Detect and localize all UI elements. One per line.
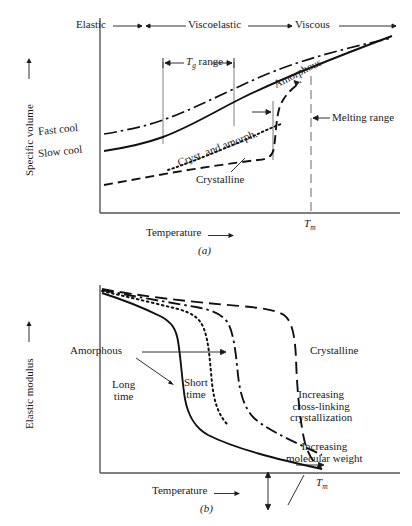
arrow-b-crosslinking-vertical bbox=[265, 472, 270, 510]
y-axis-label-a: Specific volume bbox=[24, 104, 36, 176]
annotation-tg-range: Tg range bbox=[186, 56, 223, 70]
label-b-increasing-molecular-weight: Increasing molecular weight bbox=[286, 441, 363, 464]
region-label-viscoelastic: Viscoelastic bbox=[188, 19, 241, 31]
xlink-line1: Increasing bbox=[298, 388, 344, 400]
label-b-long-time: Long time bbox=[112, 379, 135, 402]
long-time-line2: time bbox=[114, 390, 134, 402]
short-time-line1: Short bbox=[184, 376, 208, 388]
panel-caption-a: (a) bbox=[198, 245, 211, 257]
x-axis-arrow-b bbox=[214, 489, 242, 498]
mw-line2: molecular weight bbox=[286, 452, 363, 464]
x-tick-label-tm-b: Tm bbox=[316, 477, 328, 491]
region-label-viscous: Viscous bbox=[295, 19, 330, 31]
y-axis-arrow-b bbox=[24, 319, 34, 343]
label-b-crystalline: Crystalline bbox=[310, 345, 358, 357]
label-b-amorphous: Amorphous bbox=[70, 345, 122, 357]
figure-panel-a: Elastic Viscoelastic Viscous Tg range Fa… bbox=[0, 0, 412, 263]
curve-b-amorphous-dotted bbox=[102, 291, 228, 425]
tm-subscript-b: m bbox=[322, 482, 327, 491]
leader-crystalline bbox=[231, 158, 245, 172]
xlink-line3: crystallization bbox=[290, 411, 352, 423]
x-axis-text-b: Temperature bbox=[152, 484, 207, 496]
leader-amorphous bbox=[294, 81, 299, 86]
curve-b-short-time bbox=[102, 290, 322, 455]
chart-a-region-arrows bbox=[113, 24, 396, 28]
region-label-elastic: Elastic bbox=[76, 19, 106, 31]
panel-caption-b: (b) bbox=[200, 503, 213, 515]
y-axis-text-b: Elastic modulus bbox=[23, 358, 35, 429]
x-axis-arrow-a bbox=[208, 231, 236, 240]
x-axis-label-b: Temperature bbox=[152, 485, 207, 497]
y-axis-label-b: Elastic modulus bbox=[24, 358, 36, 429]
x-axis-label-a: Temperature bbox=[146, 227, 201, 239]
label-melting-range: Melting range bbox=[332, 112, 394, 124]
tg-range-word: range bbox=[199, 55, 223, 67]
y-axis-text-a: Specific volume bbox=[23, 104, 35, 176]
tg-subscript: g bbox=[192, 61, 196, 70]
label-crystalline: Crystalline bbox=[196, 174, 244, 186]
x-axis-text-a: Temperature bbox=[146, 226, 201, 238]
long-time-line1: Long bbox=[112, 378, 135, 390]
label-b-short-time: Short time bbox=[184, 377, 208, 400]
xlink-line2: cross-linking bbox=[292, 400, 349, 412]
curve-crystalline bbox=[104, 82, 301, 185]
x-tick-label-tm-a: Tm bbox=[304, 218, 316, 232]
label-b-increasing-crosslinking: Increasing cross-linking crystallization bbox=[290, 389, 352, 424]
y-axis-arrow-a bbox=[24, 56, 34, 80]
short-time-line2: time bbox=[186, 388, 206, 400]
leader-b-amorphous-to-curve bbox=[136, 358, 172, 383]
mw-line1: Increasing bbox=[301, 440, 347, 452]
leader-b-crosslinking bbox=[288, 475, 304, 505]
leader-b-amorphous-arrow bbox=[142, 349, 226, 354]
chart-a-melting-arrows bbox=[252, 110, 330, 121]
figure-panel-b: Amorphous Long time Short time Crystalli… bbox=[0, 263, 412, 526]
tm-subscript-a: m bbox=[310, 223, 315, 232]
